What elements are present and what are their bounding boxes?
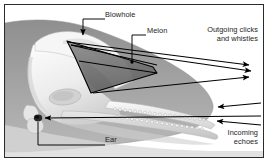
label-ear: Ear <box>105 136 117 145</box>
label-outgoing-clicks-line2: and whistles <box>176 35 258 44</box>
incoming-arrow-1 <box>218 103 261 107</box>
echolocation-figure: Blowhole Melon Ear Outgoing clicks and w… <box>0 0 270 163</box>
label-incoming-echoes-line2: echoes <box>176 138 258 147</box>
label-melon: Melon <box>147 27 167 36</box>
label-blowhole: Blowhole <box>105 11 135 20</box>
ear-marker <box>34 115 42 122</box>
figure-frame: Blowhole Melon Ear Outgoing clicks and w… <box>4 4 264 158</box>
incoming-arrow-3 <box>217 121 261 125</box>
